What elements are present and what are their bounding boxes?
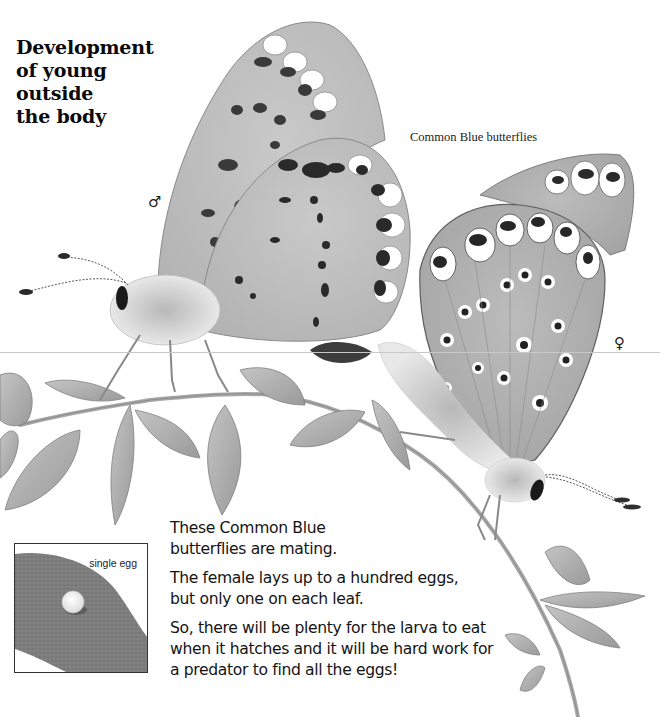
title-line: the body <box>16 105 153 128</box>
paragraph: So, there will be plenty for the larva t… <box>170 618 500 681</box>
body-text: These Common Blue butterflies are mating… <box>170 518 490 689</box>
paragraph: The female lays up to a hundred eggs, bu… <box>170 568 475 610</box>
single-egg-label: single egg <box>89 557 137 569</box>
title-line: outside <box>16 82 153 105</box>
paragraph: These Common Blue butterflies are mating… <box>170 518 375 560</box>
male-symbol-icon: ♂ <box>148 193 161 211</box>
title-line: of young <box>16 59 153 82</box>
figure-caption: Common Blue butterflies <box>410 130 537 145</box>
book-page: Development of young outside the body Co… <box>0 0 672 717</box>
female-symbol-icon: ♀ <box>614 334 625 352</box>
title-line: Development <box>16 36 153 59</box>
page-title: Development of young outside the body <box>16 36 153 128</box>
egg-icon <box>62 591 84 613</box>
female-butterfly <box>378 154 641 540</box>
male-eye <box>116 286 128 310</box>
single-egg-inset: single egg <box>14 543 148 673</box>
page-seam <box>0 352 660 353</box>
